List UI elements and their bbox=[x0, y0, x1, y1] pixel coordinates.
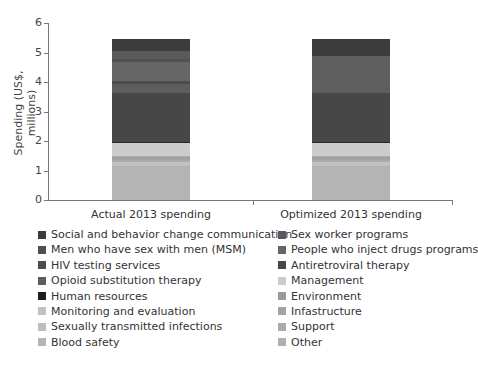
bar-segment bbox=[312, 143, 390, 156]
legend-label: Blood safety bbox=[51, 336, 119, 349]
legend-item: Infastructure bbox=[278, 305, 458, 318]
legend-label: Social and behavior change communication bbox=[51, 228, 292, 241]
legend-label: Environment bbox=[291, 290, 361, 303]
legend-swatch bbox=[38, 323, 46, 331]
legend-swatch bbox=[278, 246, 286, 254]
legend-swatch bbox=[278, 338, 286, 346]
legend-item: Environment bbox=[278, 290, 458, 303]
legend-swatch bbox=[278, 323, 286, 331]
y-tick bbox=[44, 112, 49, 113]
bar-segment bbox=[312, 93, 390, 142]
legend-item: Human resources bbox=[38, 290, 278, 303]
y-tick-label: 6 bbox=[30, 17, 42, 29]
legend-item: Men who have sex with men (MSM) bbox=[38, 243, 278, 256]
legend-swatch bbox=[278, 261, 286, 269]
legend-swatch bbox=[38, 231, 46, 239]
x-label-actual: Actual 2013 spending bbox=[51, 208, 251, 221]
y-tick bbox=[44, 171, 49, 172]
y-tick bbox=[44, 53, 49, 54]
bar-segment bbox=[312, 56, 390, 93]
bar-segment bbox=[112, 93, 190, 142]
legend-swatch bbox=[38, 246, 46, 254]
legend-swatch bbox=[38, 338, 46, 346]
legend-label: Men who have sex with men (MSM) bbox=[51, 243, 246, 256]
y-tick-label: 2 bbox=[30, 135, 42, 147]
legend-label: Sexually transmitted infections bbox=[51, 320, 222, 333]
y-tick-label: 0 bbox=[30, 194, 42, 206]
bar-segment bbox=[312, 166, 390, 200]
legend-swatch bbox=[278, 307, 286, 315]
x-tick bbox=[253, 200, 254, 205]
legend-label: HIV testing services bbox=[51, 259, 160, 272]
y-tick bbox=[44, 200, 49, 201]
x-tick bbox=[452, 200, 453, 205]
bar-segment bbox=[112, 84, 190, 93]
bar-segment bbox=[112, 51, 190, 58]
legend-swatch bbox=[278, 277, 286, 285]
legend-item: Opioid substitution therapy bbox=[38, 274, 278, 287]
legend-item: People who inject drugs programs bbox=[278, 243, 458, 256]
bar-segment bbox=[112, 143, 190, 156]
y-tick bbox=[44, 82, 49, 83]
bar-segment bbox=[112, 166, 190, 200]
bar-optimized bbox=[312, 39, 390, 200]
legend-item: Antiretroviral therapy bbox=[278, 259, 458, 272]
legend-item: Other bbox=[278, 336, 458, 349]
x-axis bbox=[48, 200, 453, 201]
y-tick-label: 5 bbox=[30, 47, 42, 59]
legend-item: Sex worker programs bbox=[278, 228, 458, 241]
y-tick bbox=[44, 23, 49, 24]
x-label-optimized: Optimized 2013 spending bbox=[251, 208, 451, 221]
legend-label: Human resources bbox=[51, 290, 147, 303]
bar-actual bbox=[112, 39, 190, 200]
legend-label: People who inject drugs programs bbox=[291, 243, 478, 256]
legend-swatch bbox=[38, 261, 46, 269]
legend-item: Support bbox=[278, 320, 458, 333]
legend-item: Monitoring and evaluation bbox=[38, 305, 278, 318]
legend: Social and behavior change communication… bbox=[38, 228, 458, 349]
legend-label: Other bbox=[291, 336, 322, 349]
bar-segment bbox=[112, 39, 190, 51]
legend-swatch bbox=[278, 292, 286, 300]
legend-swatch bbox=[38, 307, 46, 315]
legend-swatch bbox=[38, 277, 46, 285]
legend-item: Management bbox=[278, 274, 458, 287]
legend-label: Support bbox=[291, 320, 334, 333]
legend-swatch bbox=[38, 292, 46, 300]
legend-label: Sex worker programs bbox=[291, 228, 408, 241]
y-tick-label: 1 bbox=[30, 165, 42, 177]
legend-label: Management bbox=[291, 274, 363, 287]
legend-swatch bbox=[278, 231, 286, 239]
y-tick bbox=[44, 141, 49, 142]
y-tick-label: 3 bbox=[30, 106, 42, 118]
y-tick-label: 4 bbox=[30, 76, 42, 88]
bar-segment bbox=[312, 39, 390, 57]
legend-item: HIV testing services bbox=[38, 259, 278, 272]
legend-label: Antiretroviral therapy bbox=[291, 259, 409, 272]
legend-item: Social and behavior change communication bbox=[38, 228, 278, 241]
legend-label: Opioid substitution therapy bbox=[51, 274, 201, 287]
legend-label: Infastructure bbox=[291, 305, 362, 318]
legend-label: Monitoring and evaluation bbox=[51, 305, 195, 318]
legend-item: Sexually transmitted infections bbox=[38, 320, 278, 333]
legend-item: Blood safety bbox=[38, 336, 278, 349]
bar-segment bbox=[112, 62, 190, 81]
